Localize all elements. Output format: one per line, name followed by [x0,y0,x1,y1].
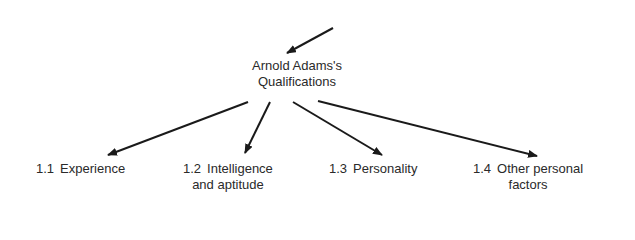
root-node: Arnold Adams's Qualifications [222,58,372,90]
child-number: 1.1 [36,161,54,176]
arrow-to-1-1 [108,102,248,155]
child-label: Other personal [497,161,583,176]
child-label: Experience [60,161,125,176]
child-label: Intelligence [207,161,273,176]
arrow-to-1-4 [318,101,537,156]
child-node-experience: 1.1Experience [36,161,125,177]
incoming-arrow [287,28,333,53]
root-label-line1: Arnold Adams's [222,58,372,74]
child-node-other-factors: 1.4Other personal factors [473,161,583,193]
child-number: 1.2 [183,161,201,176]
root-label-line2: Qualifications [222,74,372,90]
child-label-line2: and aptitude [183,177,273,193]
child-node-personality: 1.3Personality [329,161,417,177]
child-label: Personality [353,161,417,176]
child-number: 1.4 [473,161,491,176]
child-number: 1.3 [329,161,347,176]
arrow-to-1-2 [245,102,270,153]
child-label-line2: factors [473,177,583,193]
arrow-to-1-3 [293,102,382,155]
child-node-intelligence: 1.2Intelligence and aptitude [183,161,273,193]
